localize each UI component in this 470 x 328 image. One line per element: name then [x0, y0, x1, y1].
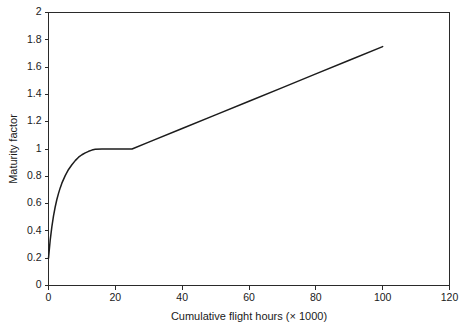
y-tick-label: 0.8	[27, 169, 42, 181]
x-axis-tick-labels: 020406080100120	[46, 291, 459, 303]
y-tick-label: 0.6	[27, 196, 42, 208]
x-tick-label: 0	[46, 291, 52, 303]
y-tick-label: 2	[36, 5, 42, 17]
y-tick-label: 1.8	[27, 33, 42, 45]
x-axis-ticks	[49, 286, 450, 290]
y-tick-label: 0.4	[27, 224, 42, 236]
x-tick-label: 40	[176, 291, 188, 303]
y-axis-ticks	[45, 13, 49, 286]
x-tick-label: 20	[109, 291, 121, 303]
x-tick-label: 60	[243, 291, 255, 303]
data-series-group	[49, 47, 383, 259]
y-tick-label: 1.4	[27, 87, 42, 99]
y-tick-label: 1	[36, 142, 42, 154]
y-tick-label: 0	[36, 278, 42, 290]
y-axis-title: Maturity factor	[7, 114, 19, 184]
data-line-maturity-factor	[49, 47, 383, 259]
x-axis-title: Cumulative flight hours (× 1000)	[171, 310, 327, 322]
y-tick-label: 1.6	[27, 60, 42, 72]
x-tick-label: 100	[374, 291, 392, 303]
y-tick-label: 1.2	[27, 114, 42, 126]
x-tick-label: 120	[441, 291, 459, 303]
chart-figure: 00.20.40.60.811.21.41.61.82 020406080100…	[0, 0, 470, 328]
x-tick-label: 80	[310, 291, 322, 303]
line-chart: 00.20.40.60.811.21.41.61.82 020406080100…	[0, 0, 470, 328]
y-axis-tick-labels: 00.20.40.60.811.21.41.61.82	[27, 5, 42, 290]
y-tick-label: 0.2	[27, 251, 42, 263]
